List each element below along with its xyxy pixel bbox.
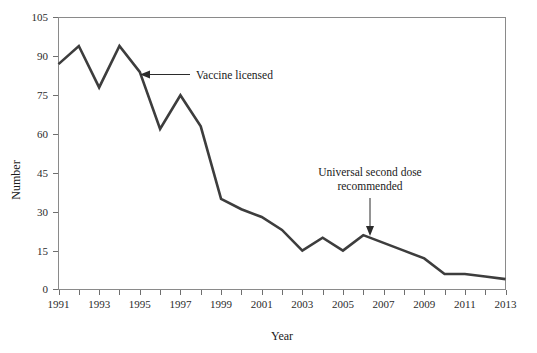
y-tick-label: 15 <box>37 245 49 257</box>
annotation-label-line2: recommended <box>337 180 402 192</box>
annotation-label: Vaccine licensed <box>196 69 273 81</box>
y-tick-label: 0 <box>43 283 49 295</box>
x-axis-title: Year <box>271 329 293 343</box>
y-tick-label: 90 <box>37 50 49 62</box>
x-tick-label: 1995 <box>129 298 152 310</box>
x-tick-label: 1997 <box>169 298 192 310</box>
line-chart: 105 90 75 60 45 30 15 0 Number 199119931… <box>0 0 537 353</box>
y-tick-label: 30 <box>37 206 49 218</box>
x-tick-label: 2005 <box>332 298 355 310</box>
x-tick-label: 2001 <box>251 298 273 310</box>
y-axis-title: Number <box>9 160 23 199</box>
y-tick-label: 45 <box>37 167 49 179</box>
y-tick-label: 105 <box>32 11 49 23</box>
x-tick-label: 1999 <box>210 298 233 310</box>
y-tick-label: 75 <box>37 89 49 101</box>
x-tick-label: 2011 <box>454 298 476 310</box>
x-tick-label: 1993 <box>88 298 111 310</box>
x-tick-label: 2013 <box>495 298 518 310</box>
x-tick-label: 2007 <box>373 298 396 310</box>
x-tick-label: 2003 <box>291 298 314 310</box>
y-tick-label: 60 <box>37 128 49 140</box>
x-tick-label: 2009 <box>413 298 436 310</box>
chart-container: 105 90 75 60 45 30 15 0 Number 199119931… <box>0 0 537 353</box>
x-tick-label: 1991 <box>48 298 70 310</box>
annotation-label-line1: Universal second dose <box>318 166 421 178</box>
